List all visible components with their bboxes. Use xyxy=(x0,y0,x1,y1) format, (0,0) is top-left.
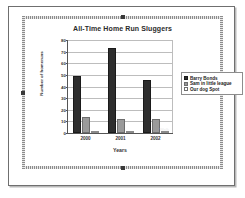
x-tick-label: 2001 xyxy=(115,136,125,141)
y-tick-label: 10 xyxy=(61,119,66,124)
plot-area: 01020304050607080 Walk 200020012002 xyxy=(67,40,173,134)
bar[interactable] xyxy=(117,119,125,133)
bar[interactable] xyxy=(126,131,134,133)
bar-data-label: Walk xyxy=(160,127,169,132)
legend-swatch-icon xyxy=(184,76,188,80)
document-page: All-Time Home Run Sluggers Number of hom… xyxy=(8,6,235,186)
bar[interactable] xyxy=(108,48,116,133)
bar[interactable] xyxy=(91,131,99,133)
chart-title: All-Time Home Run Sluggers xyxy=(25,25,220,32)
bar[interactable] xyxy=(143,80,151,133)
legend-item[interactable]: Barry Bonds xyxy=(184,76,240,81)
chart-legend[interactable]: Barry BondsSam in little leagueOur dog S… xyxy=(181,72,243,95)
y-tick-label: 0 xyxy=(64,131,66,136)
y-tick-label: 60 xyxy=(61,61,66,66)
legend-swatch-icon xyxy=(184,87,188,91)
chart-object[interactable]: All-Time Home Run Sluggers Number of hom… xyxy=(22,16,223,169)
legend-item-label: Our dog Spot xyxy=(190,87,219,92)
legend-swatch-icon xyxy=(184,82,188,86)
y-tick-label: 20 xyxy=(61,107,66,112)
legend-item-label: Barry Bonds xyxy=(190,76,218,81)
x-tick-label: 2000 xyxy=(80,136,90,141)
bar[interactable]: Walk xyxy=(161,131,169,133)
legend-item[interactable]: Our dog Spot xyxy=(184,87,240,92)
x-tick-label: 2002 xyxy=(150,136,160,141)
bar[interactable] xyxy=(152,119,160,133)
y-tick-mark xyxy=(66,133,68,134)
bar-group: Walk xyxy=(138,40,173,133)
bar[interactable] xyxy=(82,117,90,133)
bar-group xyxy=(68,40,103,133)
y-tick-label: 40 xyxy=(61,84,66,89)
y-tick-label: 30 xyxy=(61,96,66,101)
y-axis-title: Number of homeruns xyxy=(39,46,44,102)
bar-group xyxy=(103,40,138,133)
legend-item-label: Sam in little league xyxy=(190,81,232,86)
resize-handle-bottom[interactable] xyxy=(121,166,125,170)
x-axis-title: Years xyxy=(67,147,173,153)
bar[interactable] xyxy=(73,76,81,133)
y-tick-label: 50 xyxy=(61,72,66,77)
y-tick-label: 80 xyxy=(61,38,66,43)
y-tick-label: 70 xyxy=(61,49,66,54)
chart-canvas: All-Time Home Run Sluggers Number of hom… xyxy=(25,19,220,166)
legend-item[interactable]: Sam in little league xyxy=(184,81,240,86)
